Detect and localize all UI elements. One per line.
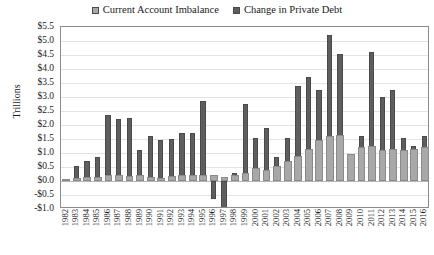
bar-series-layer: [61, 27, 429, 208]
bar: [368, 146, 376, 181]
x-axis-tick-labels: 1982198319841985198619871988198919901991…: [60, 209, 429, 255]
bar: [168, 176, 176, 181]
bar: [263, 170, 271, 181]
bar: [336, 135, 344, 181]
x-tick-label: 1983: [71, 209, 80, 226]
bar: [231, 175, 239, 181]
bar: [242, 173, 250, 181]
bar: [94, 177, 102, 181]
legend-label-change-in-private-debt: Change in Private Debt: [244, 4, 342, 16]
bar: [294, 156, 302, 181]
bar: [210, 175, 218, 181]
y-tick-label: $3.0: [37, 91, 54, 101]
x-tick-label: 1992: [166, 209, 175, 226]
bar: [315, 140, 323, 181]
bar: [105, 115, 110, 181]
chart-legend: Current Account Imbalance Change in Priv…: [0, 4, 434, 16]
x-tick-label: 2015: [409, 209, 418, 226]
bar: [410, 149, 418, 181]
legend-entry-current-account-imbalance: Current Account Imbalance: [92, 4, 219, 16]
y-tick-label: -$0.5: [34, 189, 54, 199]
y-tick-label: $5.5: [37, 21, 54, 31]
y-tick-label: -$1.0: [34, 203, 54, 213]
bar: [127, 118, 132, 181]
x-tick-label: 2014: [398, 209, 407, 226]
x-tick-label: 1999: [240, 209, 249, 226]
bar: [221, 181, 226, 208]
bar: [400, 150, 408, 181]
x-tick-label: 2000: [251, 209, 260, 226]
x-tick-label: 2008: [335, 209, 344, 226]
bar: [179, 133, 184, 181]
bar: [115, 175, 123, 181]
legend-swatch-current-account-imbalance: [92, 7, 99, 14]
bar: [169, 139, 174, 181]
x-tick-label: 2011: [367, 209, 376, 226]
bar: [62, 179, 70, 181]
bar: [148, 136, 153, 181]
y-tick-label: $1.5: [37, 133, 54, 143]
x-tick-label: 1988: [124, 209, 133, 226]
bar: [189, 175, 197, 181]
bar: [211, 181, 216, 199]
x-tick-label: 2005: [303, 209, 312, 226]
x-tick-label: 2010: [356, 209, 365, 226]
x-tick-label: 1997: [219, 209, 228, 226]
x-tick-label: 2001: [261, 209, 270, 226]
x-tick-label: 2012: [377, 209, 386, 226]
x-tick-label: 1990: [145, 209, 154, 226]
bar: [136, 175, 144, 181]
bar: [284, 161, 292, 181]
x-tick-label: 1993: [177, 209, 186, 226]
x-tick-label: 2016: [419, 209, 428, 226]
legend-swatch-change-in-private-debt: [233, 7, 240, 14]
bar: [178, 175, 186, 181]
x-tick-label: 1984: [82, 209, 91, 226]
bar: [158, 140, 163, 181]
y-tick-label: $2.0: [37, 119, 54, 129]
x-tick-label: 2009: [345, 209, 354, 226]
bar: [421, 147, 429, 181]
legend-entry-change-in-private-debt: Change in Private Debt: [233, 4, 342, 16]
x-tick-label: 1995: [198, 209, 207, 226]
y-axis-tick-labels: $5.5$5.0$4.5$4.0$3.5$3.0$2.5$2.0$1.5$1.0…: [0, 26, 58, 208]
bar: [305, 149, 313, 181]
y-tick-label: $2.5: [37, 105, 54, 115]
bar: [273, 166, 281, 181]
bar: [147, 177, 155, 181]
x-tick-label: 1994: [187, 209, 196, 226]
y-tick-label: $3.5: [37, 77, 54, 87]
y-tick-label: $4.0: [37, 63, 54, 73]
bar: [389, 149, 397, 181]
y-tick-label: $1.0: [37, 147, 54, 157]
bar: [252, 168, 260, 181]
x-tick-label: 1985: [92, 209, 101, 226]
plot-frame: [60, 26, 429, 208]
bar: [73, 178, 81, 181]
x-tick-label: 2006: [314, 209, 323, 226]
y-tick-label: $4.5: [37, 49, 54, 59]
bar: [347, 154, 355, 181]
x-tick-label: 1996: [208, 209, 217, 226]
legend-label-current-account-imbalance: Current Account Imbalance: [103, 4, 219, 16]
y-tick-label: $0.5: [37, 161, 54, 171]
x-tick-label: 2013: [388, 209, 397, 226]
x-tick-label: 1982: [61, 209, 70, 226]
bar: [200, 101, 205, 181]
bar: [358, 147, 366, 181]
bar: [243, 104, 248, 181]
x-tick-label: 1987: [113, 209, 122, 226]
bar: [116, 119, 121, 181]
x-tick-label: 2004: [293, 209, 302, 226]
bar: [379, 150, 387, 181]
x-tick-label: 1986: [103, 209, 112, 226]
plot-area: [60, 26, 429, 208]
x-tick-label: 2003: [282, 209, 291, 226]
x-tick-label: 2007: [324, 209, 333, 226]
x-tick-label: 2002: [272, 209, 281, 226]
bar: [83, 177, 91, 181]
bar-chart: Current Account Imbalance Change in Priv…: [0, 0, 434, 255]
bar: [105, 175, 113, 181]
x-tick-label: 1998: [229, 209, 238, 226]
bar: [326, 136, 334, 181]
